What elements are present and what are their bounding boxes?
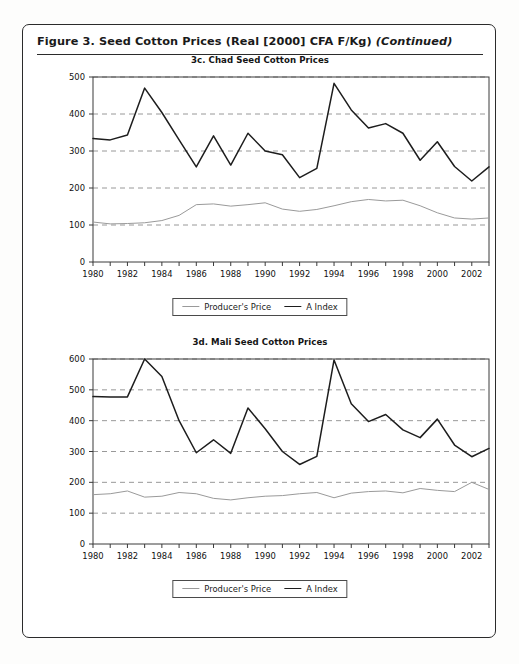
svg-text:100: 100 [69,220,85,230]
svg-text:1988: 1988 [220,269,241,279]
svg-text:1994: 1994 [323,269,344,279]
legend-label-a-index: A Index [306,302,337,312]
chart-mali: 3d. Mali Seed Cotton Prices 010020030040… [23,337,497,629]
svg-text:500: 500 [69,72,85,82]
svg-text:1992: 1992 [289,551,310,561]
legend-item-a-index: A Index [284,302,337,312]
chart-mali-plot: 0100200300400500600198019821984198619881… [23,351,497,583]
svg-text:1984: 1984 [151,551,172,561]
svg-text:0: 0 [80,257,85,267]
svg-text:1980: 1980 [82,551,103,561]
svg-text:1998: 1998 [392,551,413,561]
page-canvas: Figure 3. Seed Cotton Prices (Real [2000… [0,0,519,664]
svg-text:200: 200 [69,183,85,193]
legend-item-producer-price: Producer's Price [182,302,271,312]
svg-text:200: 200 [69,477,85,487]
legend-label-producer-price: Producer's Price [204,302,271,312]
svg-text:2002: 2002 [461,269,482,279]
chart-chad-plot: 0100200300400500198019821984198619881990… [23,69,497,301]
legend-item-a-index: A Index [284,584,337,594]
legend-label-a-index: A Index [306,584,337,594]
chart-chad: 3c. Chad Seed Cotton Prices 010020030040… [23,55,497,345]
svg-text:1986: 1986 [186,551,207,561]
figure-caption: Figure 3. Seed Cotton Prices (Real [2000… [37,35,481,48]
legend-line-producer-icon [182,588,199,589]
legend-label-producer-price: Producer's Price [204,584,271,594]
svg-text:400: 400 [69,416,85,426]
svg-text:1982: 1982 [117,551,138,561]
svg-text:1988: 1988 [220,551,241,561]
figure-caption-main: Figure 3. Seed Cotton Prices (Real [2000… [37,35,376,48]
svg-text:500: 500 [69,385,85,395]
svg-text:1996: 1996 [358,269,379,279]
figure-caption-continued: (Continued) [376,35,453,48]
svg-text:1990: 1990 [255,551,276,561]
legend-item-producer-price: Producer's Price [182,584,271,594]
legend-line-a-index-icon [284,306,301,307]
chart-chad-legend: Producer's Price A Index [172,298,347,316]
svg-text:1998: 1998 [392,269,413,279]
svg-text:0: 0 [80,539,85,549]
svg-text:2000: 2000 [427,551,448,561]
chart-chad-title: 3c. Chad Seed Cotton Prices [23,55,497,65]
chart-mali-legend: Producer's Price A Index [172,580,347,598]
svg-text:100: 100 [69,508,85,518]
svg-text:400: 400 [69,109,85,119]
chart-chad-svg: 0100200300400500198019821984198619881990… [23,69,497,301]
figure-frame: Figure 3. Seed Cotton Prices (Real [2000… [22,24,496,638]
svg-text:300: 300 [69,447,85,457]
legend-line-producer-icon [182,306,199,307]
chart-mali-title: 3d. Mali Seed Cotton Prices [23,337,497,347]
chart-mali-svg: 0100200300400500600198019821984198619881… [23,351,497,583]
svg-text:2000: 2000 [427,269,448,279]
svg-text:1994: 1994 [323,551,344,561]
svg-text:1990: 1990 [255,269,276,279]
svg-text:1984: 1984 [151,269,172,279]
svg-text:600: 600 [69,354,85,364]
svg-text:1986: 1986 [186,269,207,279]
svg-text:1992: 1992 [289,269,310,279]
svg-text:1982: 1982 [117,269,138,279]
svg-text:2002: 2002 [461,551,482,561]
svg-text:300: 300 [69,146,85,156]
svg-text:1996: 1996 [358,551,379,561]
svg-text:1980: 1980 [82,269,103,279]
legend-line-a-index-icon [284,588,301,589]
